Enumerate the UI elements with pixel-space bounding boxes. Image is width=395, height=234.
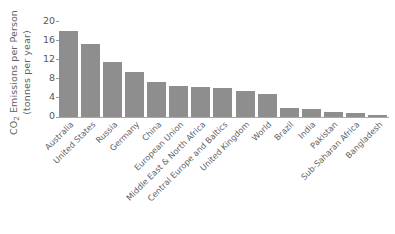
y-axis-title-rest: Emissions per Person [8,10,19,116]
bar-world [258,94,277,117]
bar-united-states [81,44,100,117]
bar-middle-east-north-africa [191,87,210,117]
y-tick-4: 4 [35,92,55,102]
y-tick-12: 12 [35,54,55,64]
page-caption [4,226,392,234]
bar-brazil [280,108,299,117]
plot-area [59,21,387,117]
bar-germany [125,72,144,117]
bar-central-europe-and-baltics [213,88,232,117]
bar-united-kingdom [236,91,255,117]
y-axis-title-line1: CO2 Emissions per Person [8,10,19,135]
bar-australia [59,31,78,117]
bar-russia [103,62,122,117]
x-axis-tick-labels: AustraliaUnited StatesRussiaGermanyChina… [0,118,395,228]
bar-european-union [169,86,188,117]
y-tick-16: 16 [35,35,55,45]
bar-india [302,109,321,117]
bar-china [147,82,166,117]
y-tick-8: 8 [35,73,55,83]
bar-series [59,21,387,117]
figure-container: CO2 Emissions per Person (tonnes per yea… [0,0,395,234]
y-tick-20: 20 [35,16,55,26]
